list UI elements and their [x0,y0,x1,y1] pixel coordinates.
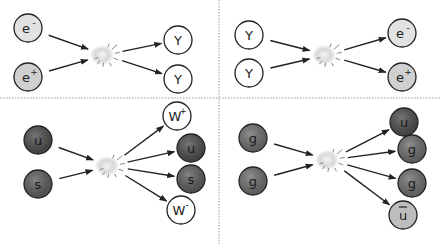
arrow-icon [344,38,385,50]
particle-label: g [408,176,416,191]
particle-label: u [187,141,195,156]
particle-label: e [22,70,30,85]
arrow-icon [122,61,162,74]
particle-label: g [249,131,257,146]
particle-electron: e- [14,14,42,42]
arrow-icon [270,59,309,68]
particle-quark-u: u [390,108,418,136]
arrow-icon [347,165,395,179]
particle-gluon: g [239,124,267,152]
arrow-icon [49,60,88,71]
particle-electron: e- [388,19,416,47]
arrow-icon [124,126,163,155]
particle-interaction-diagram: e-e+YYYYe-e+usW+usW-gguggu [0,0,441,244]
diagram-canvas: e-e+YYYYe-e+usW+usW-gguggu [0,0,441,244]
particle-photon: Y [164,26,192,54]
particle-gluon: g [398,135,426,163]
arrow-icon [123,43,162,51]
arrow-icon [59,147,93,159]
particle-w-boson: W- [167,196,195,224]
arrow-icon [274,144,313,155]
panel-quark-w-production: usW+usW- [24,102,205,224]
collision-burst-icon [90,44,120,67]
particle-label: s [188,172,195,187]
arrow-icon [348,151,395,157]
charge-superscript: + [179,106,187,116]
arrow-icon [125,175,166,201]
arrow-icon [128,152,175,162]
charge-superscript: + [30,67,38,77]
arrow-icon [59,170,92,178]
particle-label: s [35,177,42,192]
panel-gluon-fusion: gguggu [239,108,426,229]
particle-quark-u: u [177,134,205,162]
particle-quark-s: s [24,170,52,198]
particle-label: e [396,70,404,85]
arrow-icon [344,171,389,205]
particle-w-boson: W+ [163,102,191,130]
particle-photon: Y [235,59,263,87]
particle-gluon: g [398,169,426,197]
particle-photon: Y [235,21,263,49]
charge-superscript: + [404,67,412,77]
particle-quark-u: u [24,126,52,154]
particle-label: W [173,203,186,218]
arrow-icon [346,130,389,152]
particle-antiquark: u [389,201,417,229]
arrow-icon [128,169,174,176]
particle-label: Y [244,66,253,81]
particle-photon: Y [164,65,192,93]
particle-gluon: g [239,167,267,195]
particle-positron: e+ [388,63,416,91]
particle-label: g [249,174,257,189]
particle-label: Y [173,33,182,48]
particle-label: u [400,115,408,130]
charge-superscript: - [185,200,188,210]
particle-label: e [22,21,30,36]
particle-label: e [396,26,404,41]
particle-label: g [408,142,416,157]
particle-positron: e+ [14,63,42,91]
particle-label: u [34,133,42,148]
charge-superscript: - [406,23,409,33]
panel-electron-positron-annihilation: e-e+YY [14,14,192,93]
particle-label: Y [173,72,182,87]
particle-label: u [399,208,407,223]
arrow-icon [270,40,309,50]
particle-label: Y [244,28,253,43]
arrow-icon [344,60,385,72]
charge-superscript: - [32,18,35,28]
collision-burst-icon [315,149,345,172]
collision-burst-icon [312,44,342,67]
panel-photon-pair-production: YYe-e+ [235,19,416,91]
arrow-icon [49,35,88,49]
arrow-icon [274,165,312,175]
collision-burst-icon [95,155,125,178]
particle-quark-s: s [177,165,205,193]
